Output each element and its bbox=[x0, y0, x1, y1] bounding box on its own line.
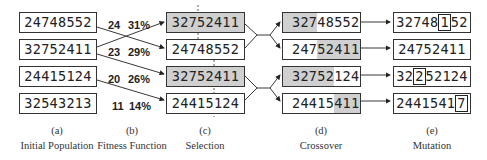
gene-sequence: 24752411 bbox=[398, 40, 465, 59]
gene-prefix: 2441541 bbox=[396, 94, 455, 113]
mutated-gene: 2 bbox=[413, 68, 425, 85]
crossover-segment-parent-b: 48552 bbox=[317, 13, 360, 32]
crossover-segment-parent-b: 411 bbox=[334, 94, 360, 113]
crossover-segment-parent-b: 52411 bbox=[317, 40, 360, 59]
genetic-algorithm-diagram: 24748552 32752411 24415124 32543213 24 3… bbox=[0, 0, 487, 160]
selected-chromosome-4: 24415124 bbox=[166, 93, 245, 114]
mutated-gene: 7 bbox=[455, 95, 467, 112]
crossover-segment-parent-a: 32752 bbox=[283, 67, 334, 86]
caption-crossover: Crossover bbox=[271, 140, 371, 151]
crossover-segment-parent-a: 247 bbox=[283, 40, 317, 59]
crossover-segment-parent-b: 124 bbox=[334, 67, 360, 86]
fitness-score-3: 20 bbox=[108, 73, 120, 85]
population-chromosome-3: 24415124 bbox=[19, 66, 97, 87]
crossover-child-1: 32748552 bbox=[282, 12, 361, 33]
selected-chromosome-3: 32752411 bbox=[166, 66, 245, 87]
caption-mutation: Mutation bbox=[382, 140, 482, 151]
fitness-score-4: 11 bbox=[112, 100, 124, 112]
mutated-chromosome-3: 32252124 bbox=[393, 66, 471, 87]
mutated-chromosome-1: 32748152 bbox=[393, 12, 471, 33]
selected-chromosome-1: 32752411 bbox=[166, 12, 245, 33]
population-chromosome-4: 32543213 bbox=[19, 93, 97, 114]
caption-letter-c: (c) bbox=[155, 125, 255, 136]
crossover-child-4: 24415411 bbox=[282, 93, 361, 114]
fitness-percent-3: 26% bbox=[128, 73, 150, 85]
population-chromosome-2: 32752411 bbox=[19, 39, 97, 60]
fitness-percent-1: 31% bbox=[128, 19, 150, 31]
crossover-child-2: 24752411 bbox=[282, 39, 361, 60]
mutated-chromosome-4: 24415417 bbox=[393, 93, 471, 114]
gene-suffix: 52124 bbox=[426, 67, 468, 86]
fitness-percent-4: 14% bbox=[129, 100, 151, 112]
caption-letter-d: (d) bbox=[271, 125, 371, 136]
crossover-segment-parent-a: 24415 bbox=[283, 94, 334, 113]
mutated-chromosome-2: 24752411 bbox=[393, 39, 471, 60]
fitness-score-1: 24 bbox=[108, 19, 120, 31]
crossover-segment-parent-a: 327 bbox=[283, 13, 317, 32]
selected-chromosome-2: 24748552 bbox=[166, 39, 245, 60]
gene-prefix: 32 bbox=[396, 67, 413, 86]
fitness-score-2: 23 bbox=[108, 46, 120, 58]
mutated-gene: 1 bbox=[438, 14, 450, 31]
crossover-child-3: 32752124 bbox=[282, 66, 361, 87]
caption-selection: Selection bbox=[155, 140, 255, 151]
gene-prefix: 32748 bbox=[396, 13, 438, 32]
fitness-percent-2: 29% bbox=[128, 46, 150, 58]
population-chromosome-1: 24748552 bbox=[19, 12, 97, 33]
caption-letter-e: (e) bbox=[382, 125, 482, 136]
gene-suffix: 52 bbox=[451, 13, 468, 32]
